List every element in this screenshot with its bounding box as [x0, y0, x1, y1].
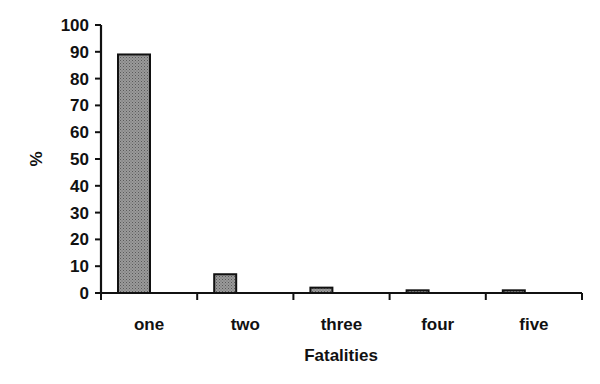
y-axis-title: % [27, 151, 46, 166]
y-tick-label: 50 [70, 150, 89, 169]
x-category-label: four [421, 315, 454, 334]
y-tick-label: 60 [70, 123, 89, 142]
y-tick-label: 100 [61, 16, 89, 35]
y-axis: 0102030405060708090100 [61, 16, 101, 303]
x-category-label: two [231, 315, 260, 334]
y-tick-label: 10 [70, 257, 89, 276]
y-tick-label: 70 [70, 96, 89, 115]
x-axis-title: Fatalities [304, 346, 378, 365]
x-category-label: five [519, 315, 548, 334]
y-tick-label: 80 [70, 70, 89, 89]
x-axis: onetwothreefourfive [101, 293, 582, 334]
bar-three [310, 288, 332, 293]
bar-one [118, 54, 150, 293]
bar-chart: 0102030405060708090100 onetwothreefourfi… [0, 0, 600, 384]
bar-five [503, 290, 525, 293]
x-category-label: one [134, 315, 164, 334]
y-tick-label: 40 [70, 177, 89, 196]
y-tick-label: 90 [70, 43, 89, 62]
bar-four [407, 290, 429, 293]
bars [118, 54, 525, 293]
y-tick-label: 0 [80, 284, 89, 303]
x-category-label: three [321, 315, 363, 334]
y-tick-label: 30 [70, 204, 89, 223]
y-tick-label: 20 [70, 230, 89, 249]
bar-two [214, 274, 236, 293]
